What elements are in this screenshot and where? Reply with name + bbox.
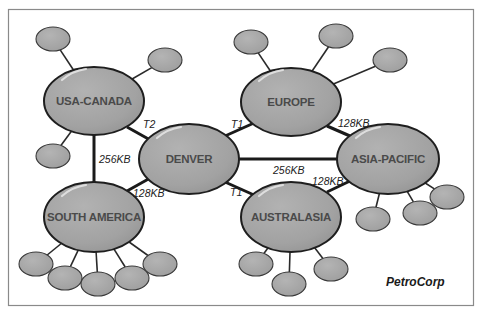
satellite-node-south-america[interactable] [143, 252, 177, 276]
link-label-denver-australasia: T1 [230, 186, 242, 198]
hub-australasia[interactable]: AUSTRALASIA [241, 182, 341, 252]
satellite-node-south-america[interactable] [19, 252, 53, 276]
link-label-denver-asia-pacific: 256KB [272, 164, 305, 176]
satellite-node-europe[interactable] [319, 24, 353, 48]
hub-south-america[interactable]: SOUTH AMERICA [44, 182, 144, 252]
hub-label-australasia: AUSTRALASIA [251, 211, 331, 223]
satellite-node-australasia[interactable] [314, 257, 348, 281]
satellite-node-usa-canada[interactable] [36, 27, 70, 51]
satellite-node-asia-pacific[interactable] [356, 207, 390, 231]
satellite-node-europe[interactable] [373, 48, 407, 72]
link-label-denver-europe: T1 [231, 118, 243, 130]
satellite-node-australasia[interactable] [239, 252, 273, 276]
satellite-node-south-america[interactable] [115, 266, 149, 290]
hub-label-usa-canada: USA-CANADA [56, 95, 132, 107]
spoke-australasia-10 [289, 252, 290, 272]
satellite-node-usa-canada[interactable] [36, 144, 70, 168]
hub-denver[interactable]: DENVER [139, 124, 239, 194]
satellite-node-usa-canada[interactable] [148, 48, 182, 72]
hub-europe[interactable]: EUROPE [241, 68, 341, 136]
hub-label-asia-pacific: ASIA-PACIFIC [351, 153, 425, 165]
satellite-node-south-america[interactable] [48, 266, 82, 290]
network-diagram: USA-CANADA DENVER EUROPE ASIA-PACIFIC SO… [0, 0, 481, 320]
link-label-europe-asia-pacific: 128KB [338, 117, 370, 129]
hub-label-europe: EUROPE [267, 96, 315, 108]
link-label-usa-denver: T2 [143, 118, 155, 130]
link-label-australasia-asia-pacific: 128KB [312, 175, 344, 187]
hub-usa-canada[interactable]: USA-CANADA [44, 67, 144, 135]
link-label-denver-south-america: 128KB [133, 187, 165, 199]
link-label-usa-south-america: 256KB [98, 153, 131, 165]
satellite-node-australasia[interactable] [272, 272, 306, 296]
hub-label-denver: DENVER [166, 153, 214, 165]
satellite-node-asia-pacific[interactable] [403, 201, 437, 225]
satellite-node-asia-pacific[interactable] [430, 185, 464, 209]
satellite-node-europe[interactable] [234, 30, 268, 54]
brand-label: PetroCorp [386, 275, 445, 289]
satellite-node-south-america[interactable] [81, 272, 115, 296]
hub-label-south-america: SOUTH AMERICA [47, 211, 141, 223]
hub-asia-pacific[interactable]: ASIA-PACIFIC [337, 124, 439, 194]
